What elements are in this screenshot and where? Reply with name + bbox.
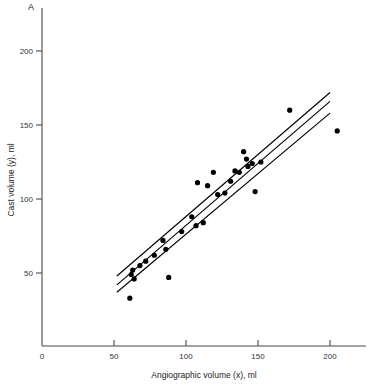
y-axis-ticks: 50100150200 bbox=[20, 47, 42, 278]
y-tick-label: 200 bbox=[20, 47, 34, 56]
x-axis-ticks: 050100150200 bbox=[40, 340, 337, 361]
data-point bbox=[179, 229, 184, 234]
figure-panel-a: A 50100150200 050100150200 Angiographic … bbox=[0, 0, 376, 387]
data-point bbox=[250, 161, 255, 166]
data-point bbox=[193, 223, 198, 228]
data-point bbox=[228, 179, 233, 184]
x-tick-label: 150 bbox=[251, 352, 265, 361]
data-point bbox=[222, 190, 227, 195]
data-point bbox=[201, 220, 206, 225]
data-point bbox=[143, 259, 148, 264]
data-point bbox=[258, 159, 263, 164]
data-point bbox=[189, 214, 194, 219]
x-tick-label: 100 bbox=[179, 352, 193, 361]
data-point bbox=[205, 183, 210, 188]
data-point bbox=[215, 192, 220, 197]
data-point bbox=[152, 253, 157, 258]
y-tick-label: 100 bbox=[20, 195, 34, 204]
data-point bbox=[335, 128, 340, 133]
data-point bbox=[287, 108, 292, 113]
data-point bbox=[132, 276, 137, 281]
data-point bbox=[166, 275, 171, 280]
y-tick-label: 50 bbox=[24, 269, 33, 278]
data-point bbox=[137, 263, 142, 268]
data-point bbox=[245, 164, 250, 169]
data-point bbox=[130, 267, 135, 272]
data-point bbox=[237, 170, 242, 175]
data-point bbox=[163, 247, 168, 252]
data-point bbox=[127, 296, 132, 301]
axes bbox=[42, 8, 366, 346]
y-tick-label: 150 bbox=[20, 121, 34, 130]
scatter-plot: 50100150200 050100150200 Angiographic vo… bbox=[0, 0, 376, 387]
data-point bbox=[211, 170, 216, 175]
data-point bbox=[253, 189, 258, 194]
data-point bbox=[129, 272, 134, 277]
x-axis-title: Angiographic volume (x), ml bbox=[151, 370, 256, 380]
data-point bbox=[241, 149, 246, 154]
x-tick-label: 0 bbox=[40, 352, 45, 361]
data-point bbox=[160, 238, 165, 243]
data-points bbox=[127, 108, 340, 301]
upper-confidence-band bbox=[117, 92, 330, 276]
x-tick-label: 200 bbox=[323, 352, 337, 361]
data-point bbox=[244, 156, 249, 161]
y-axis-title: Cast volume (y), ml bbox=[6, 143, 16, 216]
data-point bbox=[195, 180, 200, 185]
lower-confidence-band bbox=[117, 113, 330, 292]
x-tick-label: 50 bbox=[110, 352, 119, 361]
